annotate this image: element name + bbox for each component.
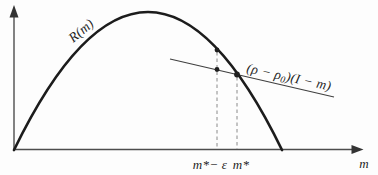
figure-canvas: R(m) (ρ − ρ0)(I − m) m*− ε m* m <box>0 0 378 175</box>
point-curve-at-m-star-minus-eps <box>215 48 220 53</box>
x-axis-label: m <box>359 156 369 171</box>
point-line-at-m-star-minus-eps <box>215 67 220 72</box>
function-plot: R(m) (ρ − ρ0)(I − m) m*− ε m* m <box>0 0 378 175</box>
secant-label: (ρ − ρ0)(I − m) <box>245 60 333 95</box>
secant-label-post: )(I − m) <box>284 69 333 94</box>
point-intersection-m-star <box>234 72 240 78</box>
tick-label-m-star-minus-eps: m*− ε <box>193 157 228 172</box>
secant-label-pre: (ρ − ρ <box>245 60 283 82</box>
curve-label: R(m) <box>65 16 97 46</box>
x-axis-arrow-icon <box>352 145 364 154</box>
y-axis-arrow-icon <box>10 5 19 18</box>
tick-label-m-star: m* <box>233 157 250 172</box>
revenue-curve <box>14 12 282 150</box>
